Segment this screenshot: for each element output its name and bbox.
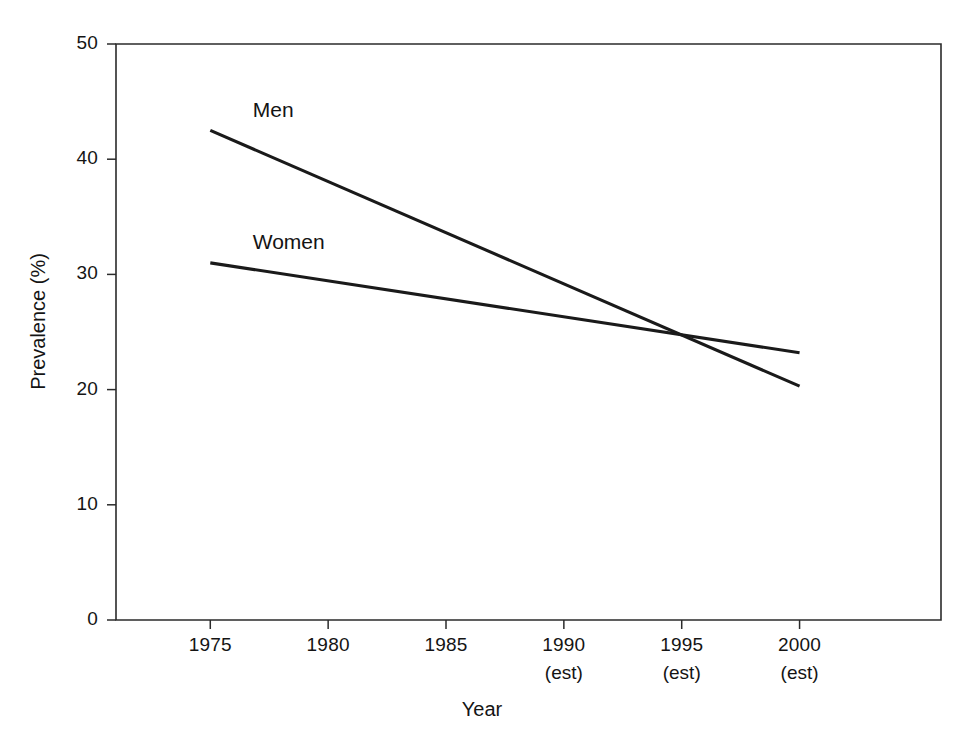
series-line-women bbox=[210, 263, 799, 353]
x-tick-sublabel-1990: (est) bbox=[514, 662, 614, 684]
x-tick-label-2000: 2000 bbox=[750, 634, 850, 656]
series-label-men: Men bbox=[253, 98, 294, 122]
x-axis-title: Year bbox=[0, 698, 964, 721]
y-tick-label-0: 0 bbox=[16, 608, 98, 630]
x-tick-label-1985: 1985 bbox=[396, 634, 496, 656]
prevalence-by-year-line-chart: 01020304050 1975198019851990(est)1995(es… bbox=[0, 0, 964, 740]
y-tick-label-40: 40 bbox=[16, 147, 98, 169]
y-tick-label-10: 10 bbox=[16, 493, 98, 515]
x-tick-sublabel-2000: (est) bbox=[750, 662, 850, 684]
x-tick-label-1995: 1995 bbox=[632, 634, 732, 656]
y-tick-label-50: 50 bbox=[16, 32, 98, 54]
plot-canvas bbox=[0, 0, 964, 740]
series-line-men bbox=[210, 130, 799, 386]
plot-frame bbox=[116, 44, 941, 620]
series-label-women: Women bbox=[253, 230, 325, 254]
x-tick-label-1975: 1975 bbox=[160, 634, 260, 656]
x-tick-label-1990: 1990 bbox=[514, 634, 614, 656]
x-tick-sublabel-1995: (est) bbox=[632, 662, 732, 684]
x-tick-label-1980: 1980 bbox=[278, 634, 378, 656]
axes-group bbox=[116, 44, 941, 620]
y-axis-title: Prevalence (%) bbox=[27, 222, 50, 422]
data-series-group bbox=[210, 130, 799, 386]
